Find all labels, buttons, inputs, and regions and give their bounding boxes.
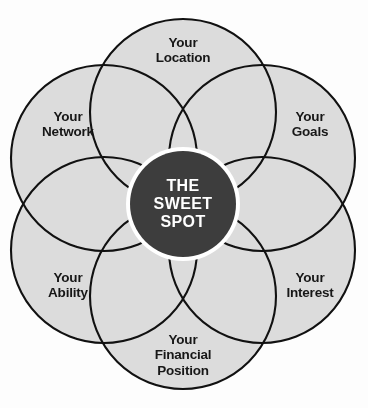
petal-label-network: Your Network [42,109,94,140]
petal-label-location: Your Location [156,35,211,66]
petal-label-financial: Your Financial Position [155,332,212,378]
sweet-spot-venn-diagram: Your Location Your Goals Your Interest Y… [0,0,368,408]
petal-label-goals: Your Goals [292,109,329,140]
petal-label-ability: Your Ability [48,270,88,301]
petal-label-interest: Your Interest [286,270,333,301]
center-label-sweet-spot: THE SWEET SPOT [154,177,213,232]
